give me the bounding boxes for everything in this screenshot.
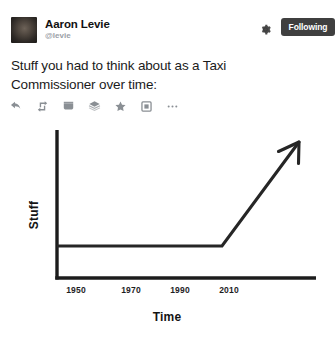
display-name[interactable]: Aaron Levie [45, 17, 110, 31]
tweet-card: Aaron Levie @levie Following Stuff you h… [0, 0, 335, 342]
data-line [57, 142, 299, 246]
embed-icon[interactable] [140, 100, 156, 116]
x-tick-label: 1990 [170, 285, 190, 295]
more-icon[interactable] [166, 100, 182, 116]
favorite-star-icon[interactable] [114, 100, 130, 116]
y-axis-title: Stuff [27, 200, 41, 229]
gear-icon[interactable] [259, 22, 272, 35]
retweet-icon[interactable] [36, 100, 52, 116]
x-axis-title: Time [153, 310, 182, 324]
user-handle[interactable]: @levie [45, 30, 71, 41]
x-tick-label: 1970 [121, 285, 141, 295]
stuff-over-time-chart: 1950 1970 1990 2010 Stuff Time [0, 118, 335, 342]
x-tick-label: 2010 [219, 285, 239, 295]
tip-icon[interactable] [88, 100, 104, 116]
tweet-text: Stuff you had to think about as a Taxi C… [11, 56, 311, 94]
buffer-icon[interactable] [62, 100, 78, 116]
tweet-header: Aaron Levie @levie Following [11, 17, 324, 45]
following-button[interactable]: Following [281, 18, 335, 36]
avatar[interactable] [11, 17, 37, 43]
reply-icon[interactable] [10, 100, 26, 116]
tweet-action-bar [10, 100, 200, 118]
x-tick-label: 1950 [66, 285, 86, 295]
